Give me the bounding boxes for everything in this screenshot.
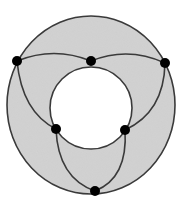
- vertex-B: [86, 56, 96, 66]
- annulus-region: [7, 16, 175, 194]
- inner-circle: [50, 67, 132, 149]
- vertex-D: [51, 124, 61, 134]
- vertex-C: [160, 58, 170, 68]
- vertex-E: [120, 125, 130, 135]
- vertex-A: [12, 56, 22, 66]
- vertex-F: [90, 186, 100, 196]
- annulus-graph-diagram: [0, 0, 184, 205]
